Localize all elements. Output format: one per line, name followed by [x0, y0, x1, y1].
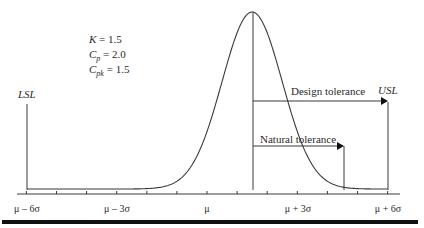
param-cp: Cp = 2.0	[89, 48, 126, 63]
natural-tolerance-label: Natural tolerance	[260, 133, 336, 145]
bottom-rule	[2, 220, 418, 224]
tick-label-plus-3sigma: μ + 3σ	[285, 203, 312, 214]
parameter-block: K = 1.5 Cp = 2.0 Cpk = 1.5	[88, 33, 130, 78]
x-axis-tick-labels: μ – 6σ μ – 3σ μ μ + 3σ μ + 6σ	[14, 203, 402, 214]
design-tolerance-arrowhead-icon	[381, 97, 388, 105]
tick-label-minus-6sigma: μ – 6σ	[14, 203, 40, 214]
design-tolerance-label: Design tolerance	[291, 85, 365, 97]
usl-label: USL	[378, 84, 398, 96]
natural-tolerance-arrowhead-icon	[337, 142, 344, 150]
param-k: K = 1.5	[88, 33, 122, 45]
tick-label-minus-3sigma: μ – 3σ	[104, 203, 130, 214]
tick-label-mu: μ	[204, 203, 209, 214]
tick-label-plus-6sigma: μ + 6σ	[375, 203, 402, 214]
lsl-label: LSL	[17, 88, 36, 100]
param-cpk: Cpk = 1.5	[89, 63, 130, 78]
process-capability-diagram: K = 1.5 Cp = 2.0 Cpk = 1.5 LSL USL Desig…	[0, 0, 424, 228]
